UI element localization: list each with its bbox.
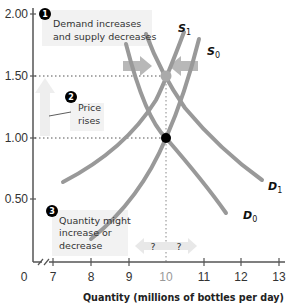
note-2-line-1: Price: [78, 102, 101, 113]
supply-demand-chart: 2.00 1.50 1.00 0.50 0 7 8 9 10 11 12 13 …: [0, 0, 288, 308]
x-tick-label: 7: [50, 270, 57, 284]
y-tick-label: 1.00: [5, 131, 29, 145]
x-tick-label: 9: [126, 270, 133, 284]
price-rise-arrow: [35, 78, 55, 136]
x-axis-label: Quantity (millions of bottles per day): [83, 292, 284, 303]
x-tick-label: 12: [234, 270, 248, 284]
new-equilibrium-point: [161, 71, 172, 82]
y-tick-label: 0.50: [5, 192, 29, 206]
note-3-line-3: decrease: [59, 240, 102, 251]
demand-shift-arrow: [123, 56, 152, 76]
d1-label: D1: [268, 180, 282, 195]
d0-label: D0: [243, 209, 257, 224]
y-tick-label: 1.50: [5, 69, 29, 83]
svg-text:1: 1: [42, 10, 48, 19]
s0-label: S0: [207, 45, 220, 60]
question-mark-left: ?: [150, 241, 155, 252]
x-tick-label: 10: [159, 270, 173, 284]
note-2-line-2: rises: [78, 115, 100, 126]
note-1-line-2: and supply decreases: [53, 31, 156, 42]
question-mark-right: ?: [176, 241, 181, 252]
svg-text:3: 3: [49, 207, 55, 216]
note-3-line-1: Quantity might: [59, 215, 131, 226]
demand-curve-d1: [146, 34, 262, 180]
x-tick-label: 0: [21, 270, 28, 284]
note-1-line-1: Demand increases: [53, 18, 141, 29]
note-3-line-2: increase or: [59, 227, 112, 238]
initial-equilibrium-point: [161, 133, 171, 143]
s1-label: S1: [178, 22, 191, 37]
x-tick-label: 13: [272, 270, 286, 284]
y-tick-label: 2.00: [5, 7, 29, 21]
x-tick-label: 11: [198, 270, 211, 284]
note-2-leader-line: [49, 112, 71, 116]
x-tick-label: 8: [88, 270, 95, 284]
svg-text:2: 2: [68, 93, 74, 102]
